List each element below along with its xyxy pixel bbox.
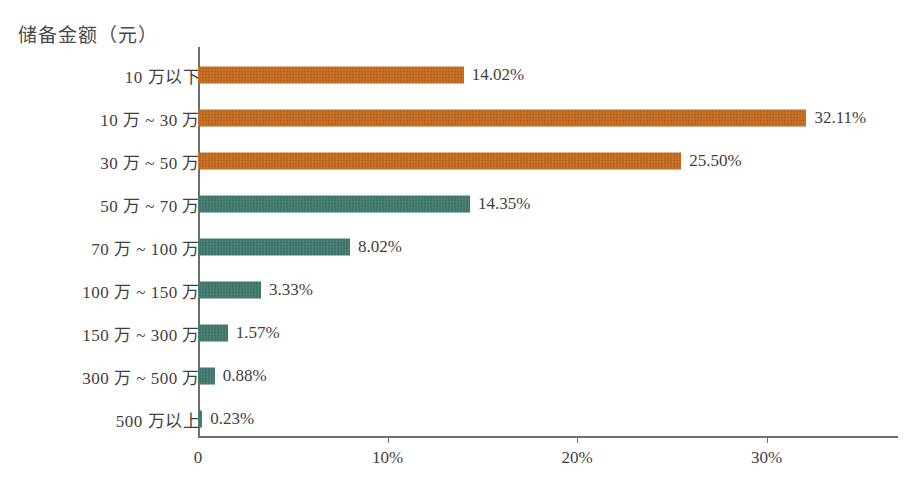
category-label: 70 万 ~ 100 万	[91, 234, 200, 259]
bar-row: 10 万 ~ 30 万32.11%	[198, 96, 914, 139]
bar	[198, 152, 681, 169]
bar-value-label: 0.23%	[210, 409, 254, 429]
bar	[198, 109, 806, 126]
category-label: 150 万 ~ 300 万	[82, 320, 200, 345]
category-label: 50 万 ~ 70 万	[100, 191, 200, 216]
bar-row: 150 万 ~ 300 万1.57%	[198, 311, 914, 354]
category-label: 30 万 ~ 50 万	[100, 148, 200, 173]
page-title: 储备金额（元）	[18, 20, 158, 47]
bar-row: 30 万 ~ 50 万25.50%	[198, 139, 914, 182]
plot-area: 10 万以下14.02%10 万 ~ 30 万32.11%30 万 ~ 50 万…	[198, 48, 898, 436]
bar	[198, 195, 470, 212]
x-axis-tick	[388, 436, 389, 443]
category-label: 10 万 ~ 30 万	[100, 105, 200, 130]
category-label: 100 万 ~ 150 万	[82, 277, 200, 302]
bar-value-label: 14.02%	[472, 65, 524, 85]
bar	[198, 367, 215, 384]
x-axis-tick-label: 0	[194, 448, 203, 468]
bar-value-label: 25.50%	[689, 151, 741, 171]
bar-row: 100 万 ~ 150 万3.33%	[198, 268, 914, 311]
bar-row: 300 万 ~ 500 万0.88%	[198, 354, 914, 397]
bar-row: 70 万 ~ 100 万8.02%	[198, 225, 914, 268]
bar-value-label: 8.02%	[358, 237, 402, 257]
bar	[198, 66, 464, 83]
category-label: 500 万以上	[116, 406, 200, 431]
bar	[198, 238, 350, 255]
bar-value-label: 3.33%	[269, 280, 313, 300]
bar-value-label: 14.35%	[478, 194, 530, 214]
bar-value-label: 1.57%	[236, 323, 280, 343]
bar-row: 500 万以上0.23%	[198, 397, 914, 440]
category-label: 300 万 ~ 500 万	[82, 363, 200, 388]
bar-row: 50 万 ~ 70 万14.35%	[198, 182, 914, 225]
bar-row: 10 万以下14.02%	[198, 53, 914, 96]
bar-value-label: 0.88%	[223, 366, 267, 386]
x-axis-tick	[577, 436, 578, 443]
bar-chart: 储备金额（元） 10 万以下14.02%10 万 ~ 30 万32.11%30 …	[0, 0, 914, 491]
bar-value-label: 32.11%	[814, 108, 866, 128]
category-label: 10 万以下	[125, 62, 200, 87]
bar	[198, 324, 228, 341]
x-axis-tick-label: 30%	[751, 448, 782, 468]
x-axis-tick	[767, 436, 768, 443]
x-axis-tick-label: 20%	[561, 448, 592, 468]
bar	[198, 410, 202, 427]
bar	[198, 281, 261, 298]
x-axis-tick-label: 10%	[372, 448, 403, 468]
